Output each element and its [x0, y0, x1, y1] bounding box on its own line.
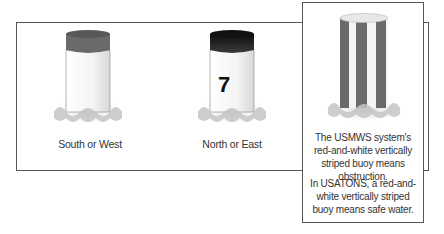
south-west-caption: South or West — [55, 138, 125, 150]
buoy-top-cap — [66, 30, 110, 38]
buoy-stripe — [340, 18, 349, 108]
inset-paragraph-obstruction: The USMWS system's red-and-white vertica… — [306, 131, 420, 183]
buoy-stripe — [356, 18, 367, 108]
buoy-body — [210, 50, 254, 112]
buoy-top-cap — [210, 30, 254, 38]
inset-paragraph-safe-water: In USATONS, a red-and-white vertically s… — [306, 177, 420, 216]
buoy-top-cap — [340, 14, 388, 23]
north-east-caption: North or East — [197, 138, 267, 150]
south-west-buoy-illustration — [48, 28, 128, 128]
north-east-buoy-illustration — [192, 28, 272, 128]
buoy-number: 7 — [218, 72, 230, 98]
buoy-stripe — [376, 18, 386, 108]
striped-buoy-illustration — [320, 10, 410, 122]
buoy-body — [66, 50, 110, 112]
